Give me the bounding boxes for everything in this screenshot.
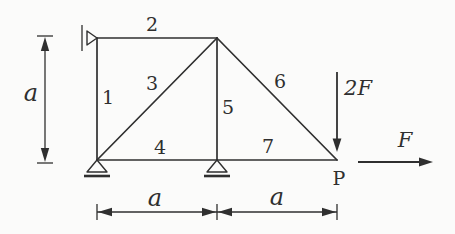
dimension-span-left-label: a bbox=[148, 184, 162, 212]
right-arrowhead-icon bbox=[202, 208, 216, 216]
down-arrowhead-icon bbox=[41, 148, 49, 162]
load-arrow-2F bbox=[333, 72, 342, 152]
point-P-label: P bbox=[333, 167, 346, 189]
roller-support-middle-icon bbox=[204, 160, 230, 176]
member-4-label: 4 bbox=[154, 136, 166, 158]
truss-diagram-canvas: 1 2 3 4 5 6 7 2F F P a a a bbox=[0, 0, 455, 234]
force-arrow-F bbox=[358, 158, 433, 167]
force-F-label: F bbox=[397, 128, 414, 152]
left-arrowhead-icon bbox=[218, 208, 232, 216]
roller-support-left-icon bbox=[84, 160, 110, 176]
member-2-label: 2 bbox=[146, 13, 158, 35]
truss-members bbox=[97, 38, 337, 160]
wall-roller-support-icon bbox=[82, 25, 97, 51]
member-3-label: 3 bbox=[146, 72, 158, 94]
support-triangle-icon bbox=[207, 160, 227, 172]
dimension-height-label: a bbox=[24, 79, 38, 107]
down-arrowhead-icon bbox=[333, 139, 342, 153]
member-5-label: 5 bbox=[222, 96, 234, 118]
roller-triangle-icon bbox=[87, 31, 97, 45]
dimension-height bbox=[37, 36, 53, 163]
support-triangle-icon bbox=[87, 160, 107, 172]
up-arrowhead-icon bbox=[41, 37, 49, 51]
member-1-label: 1 bbox=[102, 86, 114, 108]
truss-figure: 1 2 3 4 5 6 7 2F F P a a a bbox=[0, 0, 455, 234]
dimension-spans bbox=[97, 204, 337, 220]
member-6-line bbox=[217, 38, 337, 160]
load-2F-label: 2F bbox=[343, 76, 373, 100]
right-arrowhead-icon bbox=[322, 208, 336, 216]
left-arrowhead-icon bbox=[98, 208, 112, 216]
member-7-label: 7 bbox=[262, 135, 274, 157]
right-arrowhead-icon bbox=[419, 158, 433, 167]
dimension-span-right-label: a bbox=[270, 183, 284, 211]
member-6-label: 6 bbox=[274, 70, 286, 92]
